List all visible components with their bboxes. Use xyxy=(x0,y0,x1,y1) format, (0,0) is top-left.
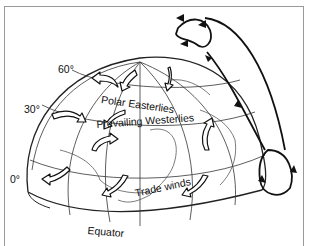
latitude-label-60: 60° xyxy=(58,64,74,75)
latitude-label-30: 30° xyxy=(24,104,40,115)
latitude-label-0: 0° xyxy=(10,174,20,185)
circulation-cells xyxy=(176,18,292,195)
